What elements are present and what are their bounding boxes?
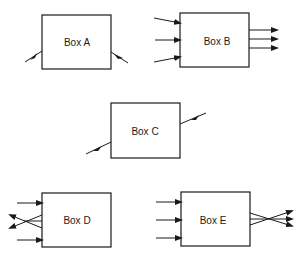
flow-diagram: Box A Box B Box C Box D Box E	[0, 0, 303, 261]
box-b-input-3	[154, 57, 180, 62]
box-b-input-1	[154, 18, 180, 23]
box-c-label: Box C	[131, 126, 158, 137]
box-d-label: Box D	[63, 215, 90, 226]
arrowhead-icon	[114, 54, 123, 59]
box-a: Box A	[25, 15, 128, 69]
box-b: Box B	[154, 13, 277, 67]
box-a-label: Box A	[64, 37, 90, 48]
arrowhead-icon	[30, 53, 37, 60]
box-d: Box D	[10, 193, 111, 247]
box-b-label: Box B	[204, 36, 231, 47]
box-e-output-3	[250, 211, 292, 225]
box-e-label: Box E	[200, 215, 227, 226]
box-c: Box C	[86, 103, 206, 158]
box-c-output-arrow	[180, 113, 206, 124]
box-e: Box E	[156, 192, 292, 246]
